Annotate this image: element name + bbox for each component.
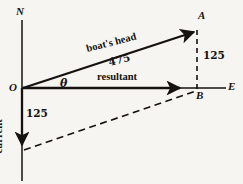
diagram-canvas <box>0 0 243 184</box>
vector-label-current: current <box>0 119 4 153</box>
point-label-origin: O <box>9 82 17 93</box>
construction-line-current-to-b <box>24 91 196 150</box>
point-label-foot-b: B <box>196 90 203 101</box>
point-label-east: E <box>228 81 235 92</box>
point-label-apex-a: A <box>198 10 205 21</box>
construction-magnitude-vertical: 125 <box>203 50 225 61</box>
vector-label-resultant: resultant <box>97 72 137 83</box>
angle-label-theta: θ <box>60 78 67 89</box>
point-label-north: N <box>16 6 24 17</box>
vector-diagram-figure: N O E A B θ boat's head 475 resultant cu… <box>0 0 243 184</box>
vector-magnitude-current: 125 <box>26 108 48 119</box>
